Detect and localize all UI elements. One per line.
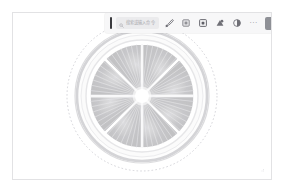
search-input[interactable]: 搜索或输入命令 <box>116 17 159 29</box>
floating-toolbar: 搜索或输入命令 <box>105 13 271 33</box>
search-placeholder: 搜索或输入命令 <box>126 21 155 25</box>
smart-cutout-button[interactable]: 智能抠图 <box>265 17 271 30</box>
frame-tool-button[interactable] <box>198 18 209 29</box>
adjust-tool-button[interactable] <box>232 18 243 29</box>
crop-tool-button[interactable] <box>181 18 192 29</box>
search-icon <box>119 14 124 32</box>
lemon-slice-artwork[interactable] <box>62 16 222 176</box>
resize-grip-icon[interactable] <box>260 169 265 174</box>
tool-buttons: ··· <box>164 17 259 30</box>
app-window: 搜索或输入命令 <box>0 0 285 196</box>
ellipsis-icon[interactable]: ··· <box>249 17 259 30</box>
toolbar-caret <box>110 17 112 29</box>
brush-tool-button[interactable] <box>164 18 175 29</box>
image-canvas[interactable]: 搜索或输入命令 <box>13 13 271 179</box>
editor-panel: 搜索或输入命令 <box>12 12 272 180</box>
shape-tool-button[interactable] <box>215 18 226 29</box>
